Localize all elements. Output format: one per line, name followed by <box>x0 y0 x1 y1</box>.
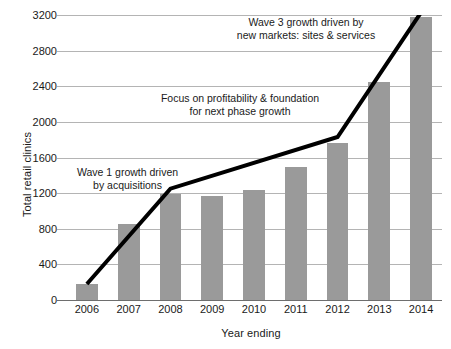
y-axis-tick-mark <box>57 51 66 52</box>
y-axis-tick-mark <box>57 86 66 87</box>
y-axis-tick-label: 800 <box>0 223 57 235</box>
annotation-wave1-growth: Wave 1 growth driven by acquisitions <box>50 166 205 192</box>
y-axis-tick-label: 1600 <box>0 152 57 164</box>
y-axis-tick-label: 1200 <box>0 187 57 199</box>
x-axis-title: Year ending <box>60 327 442 339</box>
gridline <box>66 51 442 52</box>
bar-2011 <box>285 167 307 300</box>
x-axis-tick-label: 2006 <box>75 303 99 315</box>
x-axis-tick-label: 2012 <box>325 303 349 315</box>
y-axis-tick-mark <box>57 229 66 230</box>
y-axis-tick-label: 0 <box>0 294 57 306</box>
x-axis-tick-label: 2007 <box>116 303 140 315</box>
y-axis-tick-mark <box>57 15 66 16</box>
y-axis-tick-label: 2800 <box>0 45 57 57</box>
y-axis-tick-label: 400 <box>0 258 57 270</box>
bar-2009 <box>201 196 223 300</box>
bar-2012 <box>327 143 349 300</box>
bar-2010 <box>243 190 265 300</box>
retail-clinics-bar-chart: Total retail clinics 0400800120016002000… <box>0 0 451 349</box>
x-axis-tick-label: 2013 <box>367 303 391 315</box>
bar-2006 <box>76 284 98 300</box>
y-axis-tick-label: 3200 <box>0 9 57 21</box>
bar-2013 <box>368 82 390 300</box>
x-axis-tick-label: 2009 <box>200 303 224 315</box>
bar-2014 <box>410 17 432 300</box>
annotation-wave3-growth: Wave 3 growth driven by new markets: sit… <box>208 16 404 42</box>
y-axis-tick-labels: 0400800120016002000240028003200 <box>0 15 57 300</box>
bar-2007 <box>118 224 140 300</box>
x-axis-tick-label: 2008 <box>158 303 182 315</box>
axis-baseline <box>66 300 442 301</box>
y-axis-tick-label: 2000 <box>0 116 57 128</box>
y-axis-tick-mark <box>57 122 66 123</box>
bar-2008 <box>160 194 182 300</box>
y-axis-tick-mark <box>57 158 66 159</box>
y-axis-tick-mark <box>57 264 66 265</box>
x-axis-tick-label: 2010 <box>242 303 266 315</box>
y-axis-tick-label: 2400 <box>0 80 57 92</box>
plot-area <box>66 15 442 300</box>
y-axis-tick-mark <box>57 193 66 194</box>
x-axis-tick-labels: 200620072008200920102011201220132014 <box>66 303 442 319</box>
y-axis-tick-mark <box>57 300 66 301</box>
x-axis-tick-label: 2014 <box>409 303 433 315</box>
x-axis-tick-label: 2011 <box>284 303 308 315</box>
annotation-focus-profitability: Focus on profitability & foundation for … <box>140 92 340 118</box>
